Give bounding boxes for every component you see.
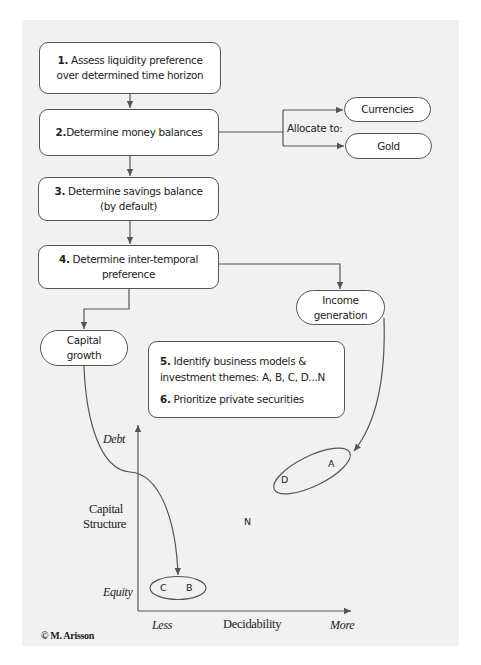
income-line1: Income bbox=[322, 293, 358, 308]
point-b: B bbox=[186, 582, 193, 593]
y-axis-bottom-label: Equity bbox=[103, 585, 133, 600]
step3-line2: (by default) bbox=[100, 199, 157, 214]
step1-line2: over determined time horizon bbox=[57, 68, 204, 83]
capital-growth-pill: Capital growth bbox=[40, 330, 128, 366]
allocate-label: Allocate to: bbox=[287, 122, 342, 134]
capital-line2: growth bbox=[67, 348, 101, 363]
step2-number: 2. bbox=[56, 126, 67, 138]
step6-number: 6. bbox=[160, 393, 171, 405]
step6-text: Prioritize private securities bbox=[174, 393, 304, 405]
point-a: A bbox=[328, 458, 335, 469]
income-line2: generation bbox=[314, 308, 368, 323]
capital-line1: Capital bbox=[67, 333, 101, 348]
gold-pill: Gold bbox=[345, 133, 432, 159]
step4-line2: preference bbox=[102, 267, 155, 282]
step4-box: 4. Determine inter-temporal preference bbox=[38, 245, 219, 289]
step3-number: 3. bbox=[55, 185, 66, 197]
step5-6-box: 5. Identify business models & investment… bbox=[148, 341, 345, 418]
x-axis-left-label: Less bbox=[152, 618, 172, 633]
step3-line1: Determine savings balance bbox=[68, 185, 202, 197]
y-axis-label-line2: Structure bbox=[83, 517, 126, 532]
step4-line1: Determine inter-temporal bbox=[73, 253, 198, 265]
y-axis-label-line1: Capital bbox=[89, 502, 123, 517]
gold-label: Gold bbox=[377, 139, 400, 154]
x-axis-right-label: More bbox=[330, 618, 354, 633]
step1-line1: Assess liquidity preference bbox=[71, 54, 202, 66]
step1-number: 1. bbox=[57, 54, 68, 66]
step3-box: 3. Determine savings balance (by default… bbox=[38, 177, 219, 221]
currencies-label: Currencies bbox=[361, 102, 413, 117]
y-axis-top-label: Debt bbox=[103, 432, 125, 447]
step5-number: 5. bbox=[160, 355, 171, 367]
step5-line2: investment themes: A, B, C, D...N bbox=[160, 369, 325, 385]
step4-number: 4. bbox=[59, 253, 70, 265]
income-generation-pill: Income generation bbox=[296, 290, 385, 325]
step2-box: 2.Determine money balances bbox=[39, 109, 219, 156]
x-axis-label: Decidability bbox=[223, 617, 281, 632]
step2-text: Determine money balances bbox=[66, 126, 202, 138]
point-c: C bbox=[160, 582, 167, 593]
currencies-pill: Currencies bbox=[344, 97, 431, 122]
point-n: N bbox=[244, 516, 251, 527]
point-d: D bbox=[281, 474, 288, 485]
step1-box: 1. Assess liquidity preference over dete… bbox=[39, 42, 221, 94]
copyright: © M. Arisson bbox=[41, 630, 94, 641]
step5-line1: Identify business models & bbox=[174, 355, 307, 367]
